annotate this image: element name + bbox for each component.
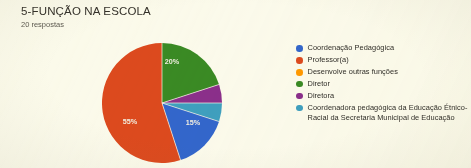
legend-item-label: Coordenação Pedagógica [308,43,395,53]
legend-item-coordenadora-etnico-racial[interactable]: Coordenadora pedagógica da Educação Étni… [296,103,468,124]
legend-item-label: Diretora [308,91,335,101]
legend-item-professor[interactable]: Professor(a) [296,55,468,65]
legend-swatch-icon [296,57,303,64]
legend-item-label: Diretor [308,79,331,89]
pie-chart: 20% 15% 55% [102,43,222,163]
chart-legend: Coordenação Pedagógica Professor(a) Dese… [296,43,468,125]
legend-item-coordenacao-pedagogica[interactable]: Coordenação Pedagógica [296,43,468,53]
legend-swatch-icon [296,45,303,52]
legend-item-label: Coordenadora pedagógica da Educação Étni… [308,103,469,124]
legend-item-diretor[interactable]: Diretor [296,79,468,89]
pie-chart-svg: 20% 15% 55% [102,43,222,163]
legend-item-diretora[interactable]: Diretora [296,91,468,101]
pie-label-coordenacao-pedagogica: 15% [186,118,201,127]
legend-item-desenvolve-outras-funcoes[interactable]: Desenvolve outras funções [296,67,468,77]
legend-swatch-icon [296,105,303,112]
legend-item-label: Desenvolve outras funções [308,67,398,77]
legend-item-label: Professor(a) [308,55,349,65]
chart-header: 5-FUNÇÃO NA ESCOLA 20 respostas [21,5,301,30]
page-title: 5-FUNÇÃO NA ESCOLA [21,5,301,18]
chart-page: 5-FUNÇÃO NA ESCOLA 20 respostas 2 [0,0,471,168]
legend-swatch-icon [296,69,303,76]
pie-label-professor: 55% [123,117,138,126]
response-count: 20 respostas [21,20,301,30]
legend-swatch-icon [296,81,303,88]
legend-swatch-icon [296,93,303,100]
pie-label-diretor: 20% [165,57,180,66]
